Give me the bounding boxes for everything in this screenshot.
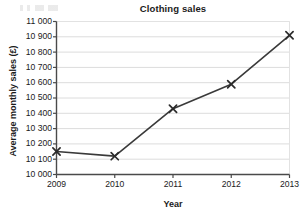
y-tick-label: 10 800 xyxy=(4,48,52,57)
x-tick-label: 2010 xyxy=(95,180,135,189)
x-tick-label: 2011 xyxy=(153,180,193,189)
y-tick-label: 10 900 xyxy=(4,32,52,41)
y-tick-label: 10 200 xyxy=(4,139,52,148)
y-tick-label: 10 700 xyxy=(4,63,52,72)
series-line xyxy=(57,35,290,156)
y-tick-label: 10 500 xyxy=(4,93,52,102)
y-tick-label: 10 100 xyxy=(4,155,52,164)
y-tick-label: 10 400 xyxy=(4,109,52,118)
y-tick-label: 10 300 xyxy=(4,124,52,133)
data-series xyxy=(57,35,290,156)
gridlines xyxy=(57,22,290,160)
x-tick-label: 2009 xyxy=(37,180,77,189)
y-tick-label: 11 000 xyxy=(4,17,52,26)
x-tick-label: 2013 xyxy=(270,180,301,189)
y-tick-label: 10 000 xyxy=(4,170,52,179)
data-markers xyxy=(53,32,293,160)
data-point-marker xyxy=(228,81,235,88)
x-tick-label: 2012 xyxy=(211,180,251,189)
data-point-marker xyxy=(169,105,176,112)
y-tick-label: 10 600 xyxy=(4,78,52,87)
chart-figure: Clothing sales Average monthly sales (£)… xyxy=(0,0,300,217)
